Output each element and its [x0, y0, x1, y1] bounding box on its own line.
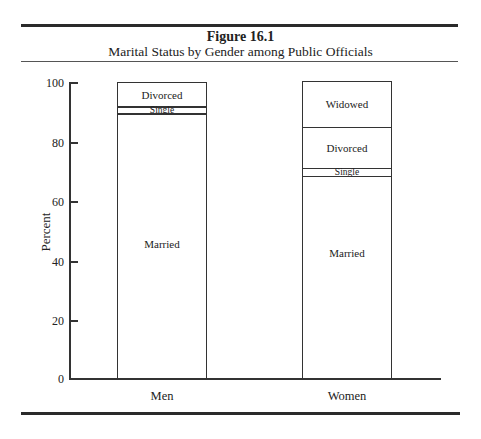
y-tick-label: 20 — [34, 315, 64, 327]
y-axis — [69, 82, 71, 380]
segment-label: Married — [144, 238, 179, 250]
segment-women-divorced: Divorced — [302, 127, 392, 169]
segment-women-married: Married — [302, 176, 392, 379]
segment-label: Married — [329, 247, 364, 259]
segment-label: Divorced — [142, 89, 183, 101]
x-category-men: Men — [117, 389, 207, 404]
y-tick-20 — [69, 320, 78, 322]
segment-men-married: Married — [117, 114, 207, 380]
y-tick-0 — [69, 378, 78, 380]
y-tick-label: 100 — [34, 77, 64, 89]
y-tick-100 — [69, 82, 78, 84]
y-tick-label: 0 — [34, 373, 64, 385]
title-rule — [21, 61, 458, 62]
y-tick-label: 40 — [34, 256, 64, 268]
y-axis-label: Percent — [38, 202, 54, 262]
y-tick-label: 80 — [34, 137, 64, 149]
top-rule — [21, 24, 458, 27]
segment-women-widowed: Widowed — [302, 81, 392, 128]
y-tick-60 — [69, 201, 78, 203]
segment-men-divorced: Divorced — [117, 82, 207, 107]
segment-label: Single — [335, 169, 359, 176]
x-category-women: Women — [302, 389, 392, 404]
y-tick-40 — [69, 261, 78, 263]
y-tick-label: 60 — [34, 196, 64, 208]
bottom-rule — [21, 412, 460, 415]
segment-label: Divorced — [327, 142, 368, 154]
y-tick-80 — [69, 142, 78, 144]
figure-title: Marital Status by Gender among Public Of… — [0, 44, 481, 60]
segment-label: Widowed — [326, 98, 368, 110]
figure-number: Figure 16.1 — [0, 29, 481, 45]
